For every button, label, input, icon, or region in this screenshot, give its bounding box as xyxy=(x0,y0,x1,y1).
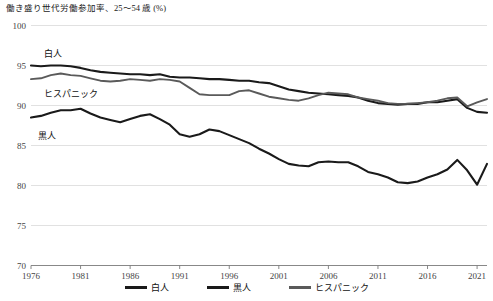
y-tick-label: 80 xyxy=(17,181,27,191)
y-tick-label: 85 xyxy=(17,141,27,151)
legend-item-black[interactable]: 黒人 xyxy=(207,281,251,294)
chart-legend: 白人 黒人 ヒスパニック xyxy=(0,281,493,294)
inline-series-labels: 白人ヒスパニック黒人 xyxy=(38,48,98,141)
y-tick-label: 70 xyxy=(17,261,27,271)
x-tick-label: 1981 xyxy=(72,271,90,281)
legend-label-hispanic: ヒスパニック xyxy=(315,281,369,294)
x-tick-label: 2006 xyxy=(319,271,338,281)
y-tick-label: 90 xyxy=(17,101,27,111)
inline-label-white: 白人 xyxy=(44,48,62,59)
x-axis-tick-labels: 1976198119861991199620012006201120162021 xyxy=(22,271,486,281)
chart-container: 働き盛り世代労働参加率、25～54 歳 (%) 100959085807570 … xyxy=(0,0,493,301)
y-tick-label: 95 xyxy=(17,61,27,71)
y-tick-label: 75 xyxy=(17,221,27,231)
inline-label-hispanic: ヒスパニック xyxy=(44,89,98,99)
series-line-hispanic xyxy=(31,74,487,107)
y-tick-label: 100 xyxy=(13,21,27,31)
x-tick-label: 2016 xyxy=(419,271,438,281)
x-tick-label: 1986 xyxy=(121,271,140,281)
legend-swatch-white xyxy=(125,286,147,289)
x-tick-label: 2001 xyxy=(270,271,288,281)
legend-swatch-hispanic xyxy=(289,286,311,289)
x-tick-label: 1996 xyxy=(220,271,239,281)
x-tick-label: 2011 xyxy=(369,271,387,281)
data-series-group xyxy=(31,66,487,185)
legend-item-hispanic[interactable]: ヒスパニック xyxy=(289,281,369,294)
y-axis-tick-labels: 100959085807570 xyxy=(13,21,27,271)
x-tick-label: 1991 xyxy=(171,271,189,281)
legend-swatch-black xyxy=(207,286,229,289)
gridlines-group xyxy=(31,26,487,226)
x-tick-label: 1976 xyxy=(22,271,41,281)
legend-item-white[interactable]: 白人 xyxy=(125,281,169,294)
chart-plot-area: 100959085807570 197619811986199119962001… xyxy=(0,0,493,301)
x-axis xyxy=(31,266,487,270)
x-tick-label: 2021 xyxy=(468,271,486,281)
series-line-black xyxy=(31,109,487,185)
legend-label-black: 黒人 xyxy=(233,281,251,294)
legend-label-white: 白人 xyxy=(151,281,169,294)
inline-label-black: 黒人 xyxy=(38,131,56,141)
